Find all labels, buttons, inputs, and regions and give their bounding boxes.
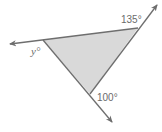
angle-label-y: y° [30, 45, 41, 57]
angle-label-100: 100° [97, 92, 118, 103]
triangle-diagram: 135° 100° y° [0, 0, 162, 132]
angle-label-135: 135° [121, 14, 142, 25]
